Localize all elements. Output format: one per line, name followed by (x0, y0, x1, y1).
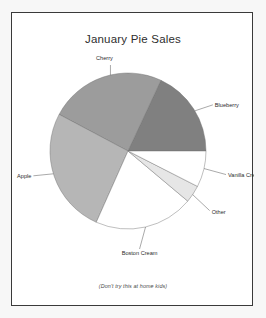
slice-label-vanilla-cream: Vanilla Cream (228, 172, 254, 178)
slice-label-other: Other (212, 209, 226, 215)
chart-panel: January Pie Sales BlueberryCherryAppleBo… (11, 12, 253, 306)
slice-label-cherry: Cherry (96, 55, 113, 61)
leader-line-blueberry (195, 105, 213, 111)
leader-line-boston-cream (140, 227, 146, 249)
leader-line-other (193, 195, 210, 211)
chart-footnote: (Don't try this at home kids) (12, 283, 254, 289)
slice-label-boston-cream: Boston Cream (122, 250, 158, 256)
figure-canvas: January Pie Sales BlueberryCherryAppleBo… (0, 0, 266, 318)
leader-line-apple (33, 174, 53, 176)
slice-label-apple: Apple (17, 173, 31, 179)
pie-chart: BlueberryCherryAppleBoston CreamOtherVan… (12, 13, 254, 307)
slice-label-blueberry: Blueberry (215, 102, 239, 108)
leader-line-vanilla-cream (204, 169, 226, 175)
